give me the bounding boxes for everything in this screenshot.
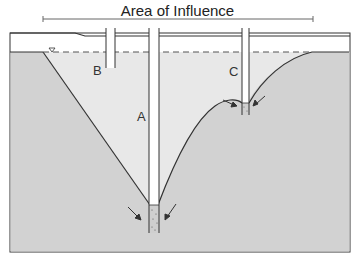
groundwater-diagram: B A C — [0, 0, 355, 260]
well-b-label: B — [93, 63, 102, 78]
well-c — [242, 28, 249, 115]
well-c-label: C — [229, 64, 238, 79]
well-a — [149, 28, 159, 233]
area-of-influence-span — [43, 16, 313, 22]
well-b — [106, 28, 115, 68]
well-a-label: A — [137, 109, 146, 124]
